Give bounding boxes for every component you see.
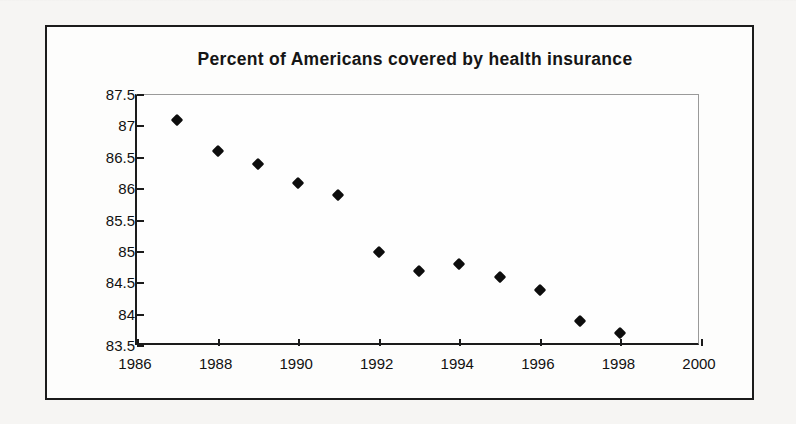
- y-axis-tick-label: 86.5: [106, 148, 135, 165]
- y-axis-tick-label: 87.5: [106, 86, 135, 103]
- x-axis-tick-label: 1996: [521, 355, 554, 372]
- x-axis-tick-label: 2000: [682, 355, 715, 372]
- data-point: [574, 315, 587, 328]
- y-axis-tick-label: 86: [118, 180, 135, 197]
- x-axis-tick-label: 1986: [118, 355, 151, 372]
- data-point: [453, 258, 466, 271]
- x-axis-tick-label: 1998: [602, 355, 635, 372]
- data-point: [251, 158, 264, 171]
- x-axis-tick-label: 1994: [441, 355, 474, 372]
- y-axis-tick-label: 84: [118, 305, 135, 322]
- y-axis-tick-label: 87: [118, 117, 135, 134]
- data-point: [292, 176, 305, 189]
- data-point: [493, 271, 506, 284]
- x-axis-tick-mark: [701, 339, 703, 346]
- y-axis-tick-label: 83.5: [106, 337, 135, 354]
- y-axis-label-group: 83.58484.58585.58686.58787.5: [47, 94, 135, 345]
- data-point: [171, 114, 184, 127]
- data-point: [614, 327, 627, 340]
- chart-title: Percent of Americans covered by health i…: [135, 49, 695, 70]
- y-axis-tick-label: 84.5: [106, 274, 135, 291]
- data-point: [533, 283, 546, 296]
- data-point: [413, 264, 426, 277]
- x-axis-tick-label: 1990: [279, 355, 312, 372]
- data-point: [211, 145, 224, 158]
- data-series-layer: [137, 95, 698, 343]
- data-point: [332, 189, 345, 202]
- x-axis-tick-label: 1992: [360, 355, 393, 372]
- plot-area: [135, 94, 699, 345]
- screenshot-root: Percent of Americans covered by health i…: [0, 0, 796, 424]
- x-axis-tick-label: 1988: [199, 355, 232, 372]
- chart-container: Percent of Americans covered by health i…: [45, 25, 754, 400]
- x-axis-label-group: 19861988199019921994199619982000: [135, 345, 699, 385]
- y-axis-tick-label: 85: [118, 242, 135, 259]
- y-axis-tick-label: 85.5: [106, 211, 135, 228]
- data-point: [372, 246, 385, 259]
